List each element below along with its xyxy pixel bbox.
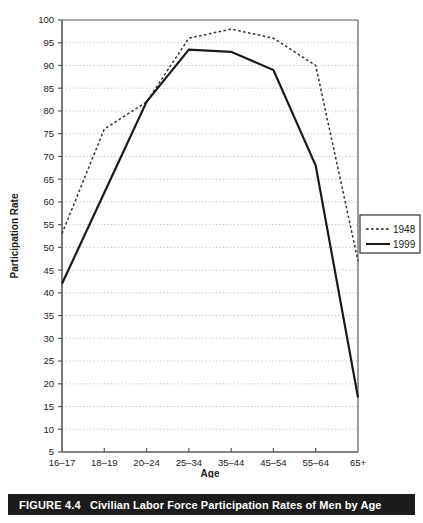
- series-line-1999: [62, 50, 358, 398]
- x-tick-label: 65+: [350, 457, 367, 468]
- y-tick-label: 50: [43, 242, 54, 253]
- gridlines: [62, 43, 358, 430]
- line-chart: 5101520253035404550556065707580859095100…: [0, 0, 423, 478]
- figure-caption-bar: FIGURE 4.4 Civilian Labor Force Particip…: [8, 494, 415, 515]
- y-tick-label: 15: [43, 401, 54, 412]
- y-tick-label: 20: [43, 378, 54, 389]
- figure-container: 5101520253035404550556065707580859095100…: [0, 0, 423, 523]
- x-tick-label: 25–34: [176, 457, 202, 468]
- figure-caption-text: Civilian Labor Force Participation Rates…: [90, 499, 382, 511]
- y-tick-label: 5: [49, 446, 54, 457]
- legend-label-1999: 1999: [393, 239, 416, 250]
- x-tick-label: 20–24: [133, 457, 159, 468]
- y-axis-title: Participation Rate: [9, 193, 20, 278]
- figure-number: FIGURE 4.4: [19, 499, 81, 511]
- x-tick-label: 55–64: [303, 457, 329, 468]
- series-line-1948: [62, 29, 358, 261]
- y-tick-label: 100: [38, 14, 54, 25]
- x-tick-label: 18–19: [91, 457, 117, 468]
- y-tick-label: 35: [43, 310, 54, 321]
- legend[interactable]: 19481999: [360, 215, 420, 253]
- y-tick-label: 45: [43, 265, 54, 276]
- y-tick-label: 40: [43, 287, 54, 298]
- x-axis-title: Age: [201, 468, 220, 478]
- y-tick-label: 80: [43, 105, 54, 116]
- x-tick-label: 35–44: [218, 457, 244, 468]
- y-tick-label: 30: [43, 333, 54, 344]
- x-tick-label: 16–17: [49, 457, 75, 468]
- y-tick-label: 65: [43, 174, 54, 185]
- series-lines: [62, 29, 358, 397]
- x-tick-label: 45–54: [260, 457, 286, 468]
- y-tick-label: 90: [43, 60, 54, 71]
- y-tick-label: 60: [43, 196, 54, 207]
- y-tick-label: 55: [43, 219, 54, 230]
- y-tick-label: 75: [43, 128, 54, 139]
- y-tick-label: 25: [43, 355, 54, 366]
- y-tick-label: 10: [43, 424, 54, 435]
- legend-label-1948: 1948: [393, 224, 416, 235]
- y-tick-label: 70: [43, 151, 54, 162]
- x-axis-tick-labels: 16–1718–1920–2425–3435–4445–5455–6465+: [49, 457, 367, 468]
- y-axis-tick-labels: 5101520253035404550556065707580859095100: [38, 14, 54, 457]
- y-tick-label: 95: [43, 37, 54, 48]
- y-tick-label: 85: [43, 83, 54, 94]
